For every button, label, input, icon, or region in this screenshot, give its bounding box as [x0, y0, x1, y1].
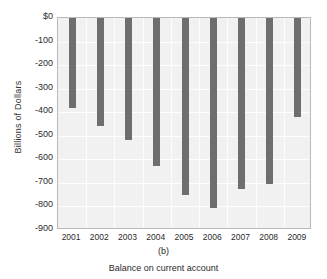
gridline-vertical [284, 18, 285, 228]
gridline-vertical [256, 18, 257, 228]
gridline-vertical [86, 18, 87, 228]
gridline-vertical [227, 18, 228, 228]
plot-area [57, 17, 311, 229]
gridline-vertical [171, 18, 172, 228]
y-axis-tick-label: -800 [5, 199, 53, 209]
y-axis-title: Billions of Dollars [13, 52, 23, 182]
y-axis-tick-label: -100 [5, 35, 53, 45]
chart-figure: Billions of Dollars $0-100-200-300-400-5… [0, 0, 327, 279]
x-axis-tick-label: 2009 [280, 232, 314, 242]
bar-2009 [294, 18, 301, 117]
gridline-vertical [114, 18, 115, 228]
gridline-vertical [199, 18, 200, 228]
x-axis-title: Balance on current account [0, 263, 327, 273]
bar-2004 [153, 18, 160, 166]
bar-2006 [210, 18, 217, 208]
gridline-horizontal [58, 206, 310, 207]
y-axis-tick-label: -400 [5, 105, 53, 115]
bar-2002 [97, 18, 104, 126]
y-axis-tick-label: -200 [5, 58, 53, 68]
bar-2005 [182, 18, 189, 195]
y-axis-tick-label: -300 [5, 82, 53, 92]
y-axis-tick-label: -900 [5, 223, 53, 233]
bar-2001 [69, 18, 76, 108]
bar-2008 [266, 18, 273, 184]
bar-2003 [125, 18, 132, 140]
y-axis-tick-label: -500 [5, 129, 53, 139]
bar-2007 [238, 18, 245, 189]
y-axis-tick-label: -700 [5, 176, 53, 186]
gridline-vertical [143, 18, 144, 228]
y-axis-tick-label: -600 [5, 152, 53, 162]
y-axis-tick-label: $0 [5, 11, 53, 21]
panel-letter: (b) [0, 246, 327, 256]
